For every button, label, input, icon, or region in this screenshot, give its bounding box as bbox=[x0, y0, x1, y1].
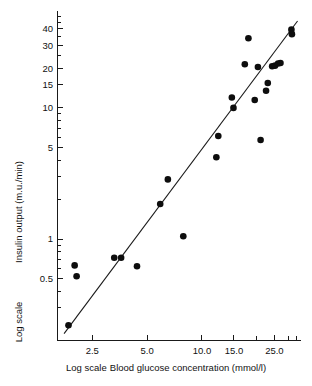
y-tick-label-0.5: 0.5 bbox=[40, 273, 53, 284]
x-axis-log-scale-note: Log scale bbox=[66, 362, 107, 373]
fitted-regression-line bbox=[64, 21, 297, 334]
y-tick-label-30: 30 bbox=[42, 40, 53, 51]
data-point-1 bbox=[73, 273, 80, 280]
data-point-17 bbox=[257, 137, 264, 144]
y-tick-label-15: 15 bbox=[42, 79, 53, 90]
chart-container: 0.51510152030402.55.010.015.025.0 Insuli… bbox=[0, 0, 312, 386]
data-point-13 bbox=[242, 61, 249, 68]
y-axis-title: Insulin output (m.u./min) bbox=[13, 161, 24, 263]
data-point-12 bbox=[230, 105, 237, 112]
data-point-25 bbox=[289, 31, 296, 38]
y-tick-label-10: 10 bbox=[42, 102, 53, 113]
axis-tick-labels: 0.51510152030402.55.010.015.025.0 bbox=[40, 23, 284, 356]
data-point-18 bbox=[263, 88, 270, 95]
x-tick-label-25.0: 25.0 bbox=[265, 345, 284, 356]
data-point-16 bbox=[255, 64, 262, 71]
data-point-3 bbox=[111, 254, 118, 261]
data-point-10 bbox=[213, 154, 220, 161]
axes bbox=[58, 11, 302, 341]
regression-line bbox=[64, 21, 297, 334]
data-point-9 bbox=[215, 133, 222, 140]
data-point-4 bbox=[118, 254, 125, 261]
data-point-5 bbox=[134, 263, 141, 270]
data-point-15 bbox=[251, 97, 258, 104]
data-point-23 bbox=[277, 60, 284, 67]
y-tick-label-5: 5 bbox=[48, 142, 53, 153]
data-point-0 bbox=[65, 322, 72, 329]
data-point-6 bbox=[157, 201, 164, 208]
data-point-7 bbox=[165, 176, 172, 183]
axis-ticks bbox=[58, 16, 297, 340]
data-point-11 bbox=[229, 94, 236, 101]
scatter-plot: 0.51510152030402.55.010.015.025.0 Insuli… bbox=[0, 0, 312, 386]
x-tick-label-5.0: 5.0 bbox=[141, 345, 154, 356]
x-tick-label-2.5: 2.5 bbox=[86, 345, 99, 356]
data-point-8 bbox=[180, 233, 187, 240]
x-tick-label-10.0: 10.0 bbox=[193, 345, 212, 356]
x-axis-title: Blood glucose concentration (mmol/l) bbox=[110, 362, 266, 373]
x-tick-label-15.0: 15.0 bbox=[225, 345, 244, 356]
y-tick-label-40: 40 bbox=[42, 23, 53, 34]
data-point-2 bbox=[71, 262, 78, 269]
y-axis-log-scale-note: Log scale bbox=[13, 302, 24, 343]
y-tick-label-20: 20 bbox=[42, 63, 53, 74]
y-tick-label-1: 1 bbox=[48, 233, 53, 244]
data-point-14 bbox=[245, 35, 252, 42]
data-point-19 bbox=[264, 80, 271, 87]
